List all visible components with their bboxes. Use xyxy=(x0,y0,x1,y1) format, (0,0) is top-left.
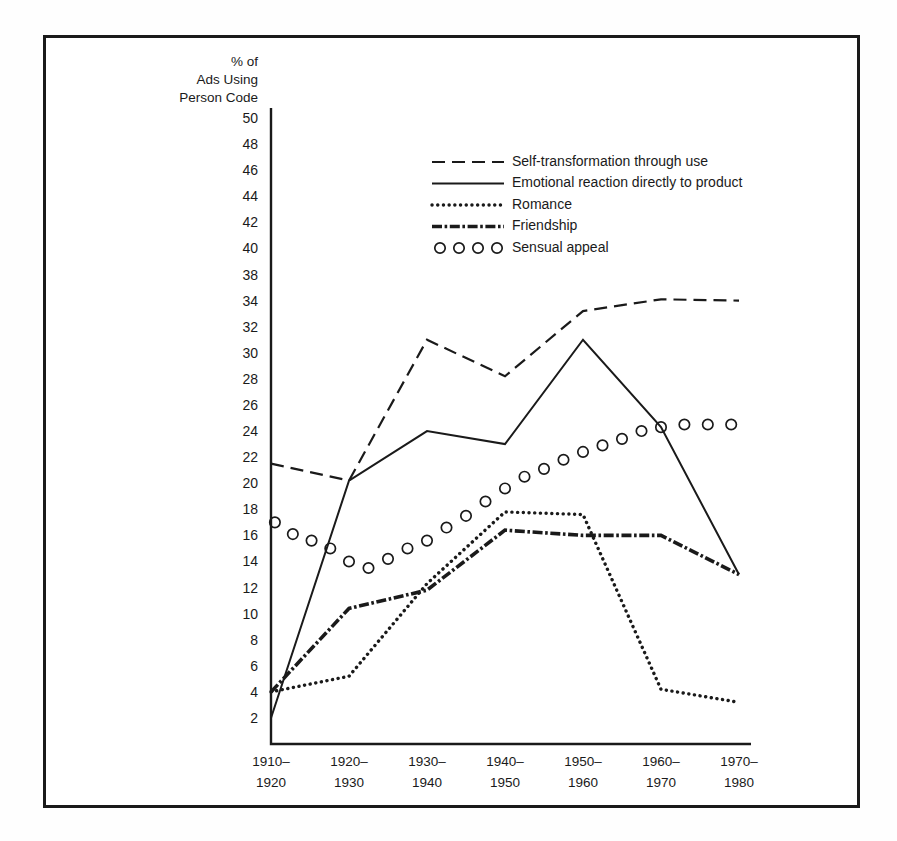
y-tick-label: 46 xyxy=(242,162,258,178)
x-axis-tick-labels: 1910–19201920–19301930–19401940–19501950… xyxy=(252,754,758,790)
chart-legend: Self-transformation through useEmotional… xyxy=(432,153,742,255)
x-tick-label: 1930 xyxy=(334,775,364,790)
sensual-appeal-marker xyxy=(306,535,316,545)
sensual-appeal-marker xyxy=(558,455,568,465)
sensual-appeal-marker xyxy=(288,529,298,539)
x-tick-label: 1960– xyxy=(642,754,680,769)
y-axis-title-line: Person Code xyxy=(179,90,258,105)
y-tick-label: 2 xyxy=(250,710,258,726)
y-tick-label: 34 xyxy=(242,293,258,309)
y-axis-title: % ofAds UsingPerson Code xyxy=(179,54,258,105)
y-tick-label: 20 xyxy=(242,475,258,491)
chart-canvas: % ofAds UsingPerson Code 504846444240383… xyxy=(0,0,897,841)
data-series-group xyxy=(270,299,739,718)
sensual-appeal-marker xyxy=(539,464,549,474)
y-tick-label: 26 xyxy=(242,397,258,413)
chart-svg: % ofAds UsingPerson Code 504846444240383… xyxy=(0,0,897,841)
sensual-appeal-marker xyxy=(597,440,607,450)
sensual-appeal-marker xyxy=(363,563,373,573)
x-tick-label: 1930– xyxy=(408,754,446,769)
sensual-appeal-marker xyxy=(441,522,451,532)
sensual-appeal-marker xyxy=(617,434,627,444)
x-tick-label: 1960 xyxy=(568,775,598,790)
x-tick-label: 1950– xyxy=(564,754,602,769)
y-tick-label: 48 xyxy=(242,136,258,152)
y-tick-label: 16 xyxy=(242,527,258,543)
y-axis-title-line: Ads Using xyxy=(196,72,258,87)
x-tick-label: 1940 xyxy=(412,775,442,790)
x-tick-label: 1950 xyxy=(490,775,520,790)
legend-label: Sensual appeal xyxy=(512,239,609,255)
sensual-appeal-marker xyxy=(726,419,736,429)
x-tick-label: 1910– xyxy=(252,754,290,769)
series-line-dashed xyxy=(271,299,739,480)
y-tick-label: 22 xyxy=(242,449,258,465)
y-tick-label: 30 xyxy=(242,345,258,361)
sensual-appeal-marker xyxy=(344,556,354,566)
legend-swatch-circles xyxy=(454,243,464,253)
sensual-appeal-marker xyxy=(519,471,529,481)
sensual-appeal-marker xyxy=(422,535,432,545)
legend-swatch-circles xyxy=(435,243,445,253)
y-tick-label: 38 xyxy=(242,267,258,283)
y-tick-label: 12 xyxy=(242,580,258,596)
y-tick-label: 28 xyxy=(242,371,258,387)
y-tick-label: 10 xyxy=(242,606,258,622)
y-axis-tick-labels: 5048464442403834323028262422201816141210… xyxy=(242,110,258,726)
sensual-appeal-marker xyxy=(636,426,646,436)
legend-label: Romance xyxy=(512,196,572,212)
legend-label: Friendship xyxy=(512,217,578,233)
sensual-appeal-marker xyxy=(578,447,588,457)
legend-label: Self-transformation through use xyxy=(512,153,708,169)
y-axis-title-line: % of xyxy=(231,54,258,69)
y-tick-label: 4 xyxy=(250,684,258,700)
x-tick-label: 1940– xyxy=(486,754,524,769)
legend-swatch-circles xyxy=(492,243,502,253)
x-tick-label: 1970– xyxy=(720,754,758,769)
x-tick-label: 1970 xyxy=(646,775,676,790)
sensual-appeal-marker xyxy=(402,543,412,553)
y-tick-label: 24 xyxy=(242,423,258,439)
y-tick-label: 14 xyxy=(242,553,258,569)
y-tick-label: 42 xyxy=(242,214,258,230)
sensual-appeal-marker xyxy=(703,419,713,429)
series-line-dash-dot xyxy=(271,530,739,692)
x-tick-label: 1980 xyxy=(724,775,754,790)
sensual-appeal-marker xyxy=(500,483,510,493)
y-tick-label: 6 xyxy=(250,658,258,674)
x-tick-label: 1920– xyxy=(330,754,368,769)
sensual-appeal-marker xyxy=(461,511,471,521)
legend-swatch-circles xyxy=(473,243,483,253)
y-tick-label: 8 xyxy=(250,632,258,648)
x-tick-label: 1920 xyxy=(256,775,286,790)
y-tick-label: 50 xyxy=(242,110,258,126)
y-tick-label: 32 xyxy=(242,319,258,335)
y-tick-label: 40 xyxy=(242,240,258,256)
sensual-appeal-marker xyxy=(679,419,689,429)
sensual-appeal-marker xyxy=(383,554,393,564)
y-tick-label: 18 xyxy=(242,501,258,517)
chart-page: % ofAds UsingPerson Code 504846444240383… xyxy=(0,0,897,841)
y-tick-label: 44 xyxy=(242,188,258,204)
legend-label: Emotional reaction directly to product xyxy=(512,174,742,190)
sensual-appeal-marker xyxy=(480,496,490,506)
